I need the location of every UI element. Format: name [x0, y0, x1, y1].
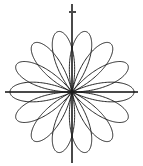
plot-canvas	[0, 0, 143, 166]
polar-rose-plot	[0, 0, 143, 166]
